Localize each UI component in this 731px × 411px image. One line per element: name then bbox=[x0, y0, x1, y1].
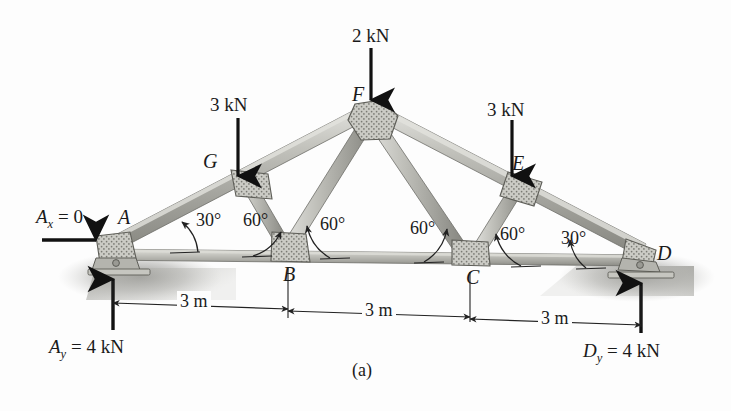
joint-label-A: A bbox=[118, 206, 130, 229]
joint-label-F: F bbox=[352, 83, 364, 106]
reaction-label-Dy: Dy = 4 kN bbox=[583, 340, 660, 366]
joint-label-D: D bbox=[657, 242, 671, 265]
angle-label-A-30: 30° bbox=[196, 210, 221, 231]
reaction-Ax-value: = 0 bbox=[53, 206, 83, 227]
load-label-E: 3 kN bbox=[487, 99, 524, 121]
joint-label-B: B bbox=[283, 263, 295, 286]
angle-label-C-60: 60° bbox=[500, 224, 525, 245]
joint-label-G: G bbox=[203, 150, 217, 173]
reaction-Dy-value: = 4 kN bbox=[602, 340, 660, 361]
reaction-Ay-value: = 4 kN bbox=[66, 336, 124, 357]
angle-label-D-30: 30° bbox=[561, 228, 586, 249]
joint-gusset-C bbox=[452, 240, 490, 266]
dimension-label-AB: 3 m bbox=[177, 291, 211, 312]
reaction-label-Ax: Ax = 0 bbox=[36, 206, 83, 232]
dimension-label-BC: 3 m bbox=[362, 300, 396, 321]
load-label-F: 2 kN bbox=[352, 25, 389, 47]
load-label-G: 3 kN bbox=[210, 94, 247, 116]
joint-label-E: E bbox=[512, 152, 524, 175]
angle-label-A-60: 60° bbox=[243, 210, 268, 231]
reaction-Ay-symbol: A bbox=[49, 336, 61, 357]
reaction-Dy-symbol: D bbox=[583, 340, 597, 361]
figure-caption: (a) bbox=[352, 360, 372, 381]
dimension-label-CD: 3 m bbox=[538, 308, 572, 329]
reaction-Ax-symbol: A bbox=[36, 206, 48, 227]
joint-gusset-B bbox=[271, 232, 310, 262]
joint-label-C: C bbox=[466, 266, 479, 289]
reaction-label-Ay: Ay = 4 kN bbox=[49, 336, 124, 362]
angle-label-B-left-60: 60° bbox=[320, 214, 345, 235]
angle-label-C-right-60: 60° bbox=[410, 218, 435, 239]
